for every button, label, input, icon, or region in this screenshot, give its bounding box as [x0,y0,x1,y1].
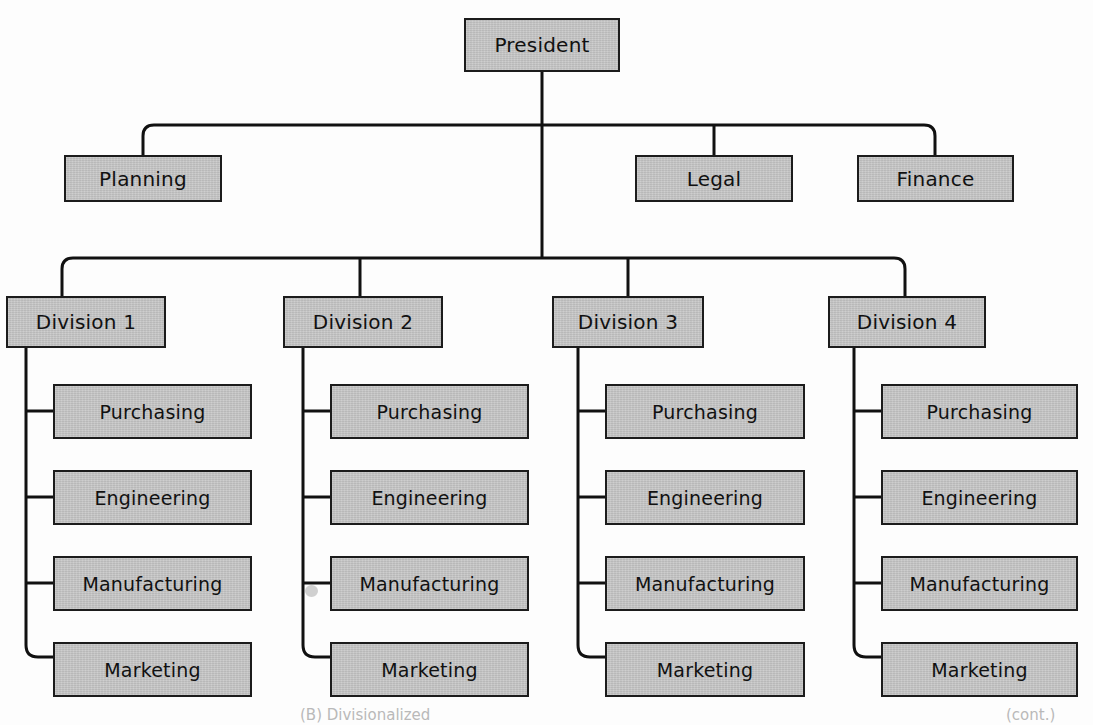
wire-staff-bus [143,125,935,201]
node-d4-manufacturing[interactable]: Manufacturing [881,556,1078,611]
node-d1-marketing[interactable]: Marketing [53,642,252,697]
wire-spine-division-4 [854,348,881,657]
node-d3-purchasing-label: Purchasing [652,401,758,423]
node-d4-purchasing-label: Purchasing [927,401,1033,423]
node-d3-purchasing[interactable]: Purchasing [605,384,805,439]
node-d2-manufacturing[interactable]: Manufacturing [330,556,529,611]
node-d4-marketing[interactable]: Marketing [881,642,1078,697]
node-d3-manufacturing-label: Manufacturing [635,573,775,595]
node-d1-purchasing[interactable]: Purchasing [53,384,252,439]
node-d2-engineering-label: Engineering [371,487,487,509]
node-division-4-label: Division 4 [857,310,957,334]
node-division-1-label: Division 1 [36,310,136,334]
scan-artifact [305,585,318,597]
node-d4-engineering-label: Engineering [921,487,1037,509]
node-division-4[interactable]: Division 4 [828,296,986,348]
node-d3-engineering[interactable]: Engineering [605,470,805,525]
node-legal-label: Legal [687,167,742,191]
node-president[interactable]: President [464,18,620,72]
node-planning[interactable]: Planning [64,155,222,202]
node-president-label: President [494,33,589,57]
node-d1-marketing-label: Marketing [104,659,201,681]
node-d1-manufacturing-label: Manufacturing [82,573,222,595]
node-d3-manufacturing[interactable]: Manufacturing [605,556,805,611]
node-d3-marketing[interactable]: Marketing [605,642,805,697]
wire-spine-division-2 [303,348,330,657]
node-d3-engineering-label: Engineering [647,487,763,509]
node-d2-manufacturing-label: Manufacturing [359,573,499,595]
node-d4-manufacturing-label: Manufacturing [909,573,1049,595]
figure-continued-note: (cont.) [1006,706,1055,724]
node-d1-manufacturing[interactable]: Manufacturing [53,556,252,611]
node-d1-engineering[interactable]: Engineering [53,470,252,525]
node-d2-marketing-label: Marketing [381,659,478,681]
node-legal[interactable]: Legal [635,155,793,202]
connector-lines [0,0,1093,725]
figure-caption: (B) Divisionalized [300,706,430,724]
node-d4-purchasing[interactable]: Purchasing [881,384,1078,439]
node-division-3[interactable]: Division 3 [552,296,704,348]
node-division-3-label: Division 3 [578,310,678,334]
node-d3-marketing-label: Marketing [657,659,754,681]
node-d1-purchasing-label: Purchasing [100,401,206,423]
node-d2-purchasing-label: Purchasing [377,401,483,423]
node-finance-label: Finance [897,167,975,191]
wire-spine-division-3 [578,348,605,657]
node-d2-purchasing[interactable]: Purchasing [330,384,529,439]
node-d1-engineering-label: Engineering [94,487,210,509]
node-division-2[interactable]: Division 2 [283,296,443,348]
wire-spine-division-1 [26,348,53,657]
node-d4-engineering[interactable]: Engineering [881,470,1078,525]
node-d4-marketing-label: Marketing [931,659,1028,681]
node-division-2-label: Division 2 [313,310,413,334]
org-chart-canvas: President Planning Legal Finance Divisio… [0,0,1093,725]
wire-division-bus [62,258,905,296]
node-division-1[interactable]: Division 1 [6,296,166,348]
node-d2-engineering[interactable]: Engineering [330,470,529,525]
node-d2-marketing[interactable]: Marketing [330,642,529,697]
node-finance[interactable]: Finance [857,155,1014,202]
node-planning-label: Planning [99,167,187,191]
